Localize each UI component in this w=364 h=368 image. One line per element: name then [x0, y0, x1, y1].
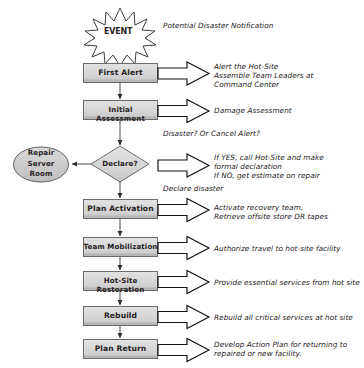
node-label-rebuild: Rebuild — [83, 312, 158, 321]
annotation-hot-site-note: Provide essential services from hot site — [214, 278, 360, 287]
node-label-team-mobilization: Team Mobilization — [83, 243, 158, 252]
block-arrow-team-mobilization — [158, 237, 209, 260]
block-arrow-first-alert — [158, 62, 209, 85]
annotation-plan-return-note: Develop Action Plan for returning to rep… — [214, 340, 347, 358]
annotation-declare-note: If YES, call Hot-Site and make formal de… — [214, 153, 324, 181]
annotation-declare-disaster-edge: Declare disaster — [163, 184, 223, 193]
annotation-initial-assessment-note: Damage Assessment — [214, 106, 292, 115]
annotation-first-alert-note: Alert the Hot-Site Assemble Team Leaders… — [214, 62, 313, 90]
annotation-event-note: Potential Disaster Notification — [163, 21, 273, 30]
annotation-rebuild-note: Rebuild all critical services at hot sit… — [214, 313, 353, 322]
event-label: EVENT — [104, 27, 132, 36]
node-label-declare: Declare? — [91, 160, 149, 169]
annotation-team-mobilization-note: Authorize travel to hot-site facility — [214, 244, 341, 253]
node-label-initial-assessment: Initial Assessment — [83, 106, 158, 124]
node-label-repair-server-room: Repair Server Room — [14, 148, 68, 180]
node-label-plan-return: Plan Return — [83, 345, 158, 354]
node-label-plan-activation: Plan Activation — [83, 205, 158, 214]
block-arrow-rebuild — [158, 306, 209, 329]
annotation-plan-activation-note: Activate recovery team. Retrieve offsite… — [214, 203, 328, 221]
block-arrow-plan-return — [158, 339, 209, 362]
event-starburst-icon — [84, 8, 156, 66]
block-arrow-hot-site-restoration — [158, 271, 209, 294]
node-label-hot-site-restoration: Hot-Site Restoration — [82, 277, 159, 295]
annotation-declare-question: Disaster? Or Cancel Alert? — [163, 129, 260, 138]
block-arrow-plan-activation — [158, 199, 209, 222]
block-arrows — [158, 62, 209, 362]
block-arrow-initial-assessment — [158, 100, 209, 123]
block-arrow-declare — [158, 154, 209, 177]
node-label-first-alert: First Alert — [83, 69, 158, 78]
